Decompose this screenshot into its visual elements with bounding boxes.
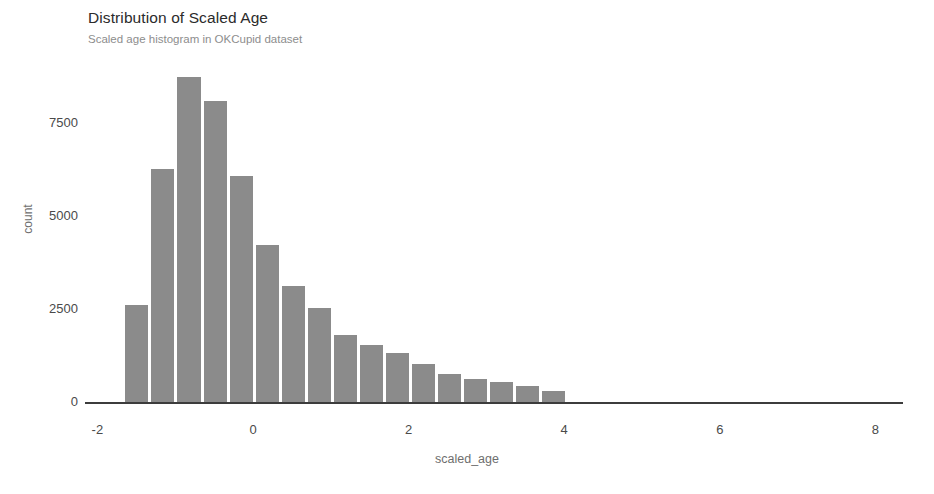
x-axis-title: scaled_age (0, 452, 934, 466)
x-tick-label: 6 (690, 422, 750, 437)
x-tick-label: -2 (67, 422, 127, 437)
x-tick-label: 0 (223, 422, 283, 437)
x-tick-label: 2 (379, 422, 439, 437)
x-tick-label: 8 (845, 422, 905, 437)
chart-figure: Distribution of Scaled Age Scaled age hi… (0, 0, 934, 494)
x-axis: -202468 (0, 0, 934, 494)
x-tick-label: 4 (534, 422, 594, 437)
